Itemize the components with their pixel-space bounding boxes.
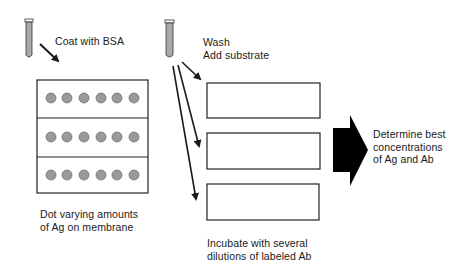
arrow-to-strip-3 [173,66,196,199]
arrow-to-strip-2 [178,65,199,146]
strip-3 [207,184,319,220]
label-incubate: Incubate with several dilutions of label… [207,237,311,262]
label-dot-line-2: of Ag on membrane [40,221,138,234]
label-coat: Coat with BSA [55,35,124,48]
label-determine-line-3: of Ag and Ab [373,153,446,166]
label-determine: Determine best concentrations of Ag and … [373,128,446,166]
arrow-to-strip-1 [182,62,200,79]
label-incubate-line-2: dilutions of labeled Ab [207,250,311,263]
label-determine-line-1: Determine best [373,128,446,141]
label-wash-line-2: Add substrate [203,49,269,62]
label-dot-line-1: Dot varying amounts [40,208,138,221]
label-incubate-line-1: Incubate with several [207,237,311,250]
label-wash: Wash Add substrate [203,36,269,61]
test-tube-icon-antibody [165,20,174,57]
label-determine-line-2: concentrations [373,141,446,154]
label-dot: Dot varying amounts of Ag on membrane [40,208,138,233]
test-tube-icon-bsa [25,19,33,57]
label-coat-text: Coat with BSA [55,35,124,48]
strip-1 [207,83,320,118]
block-arrow-icon [333,115,368,186]
strip-2 [207,133,320,169]
membrane [37,80,148,193]
label-wash-line-1: Wash [203,36,269,49]
